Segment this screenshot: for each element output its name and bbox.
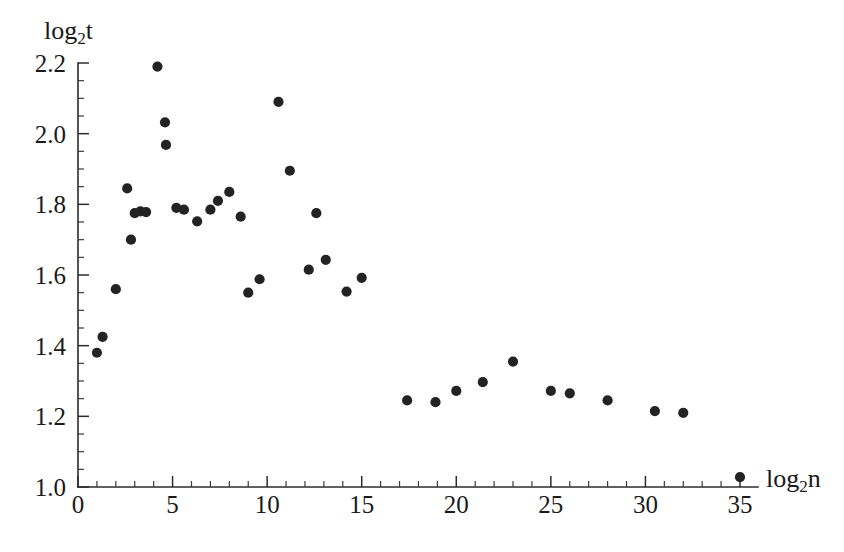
data-point [735,472,745,482]
x-tick-label: 20 [444,491,469,518]
x-tick-label: 30 [633,491,658,518]
data-point [402,395,412,405]
data-point [179,205,189,215]
y-tick-label: 2.0 [35,121,66,148]
y-tick-label: 1.4 [35,333,67,360]
data-point [285,166,295,176]
x-tick-label: 35 [728,491,753,518]
y-axis-ticks [78,63,89,487]
y-tick-label: 1.2 [35,403,66,430]
data-point [243,288,253,298]
data-point [341,287,351,297]
data-point [650,406,660,416]
data-point [236,212,246,222]
data-point [304,265,314,275]
data-points-layer [92,61,745,482]
data-point [478,377,488,387]
scatter-plot-figure: log2t log2n 1.01.21.41.61.82.02.2 051015… [0,0,844,552]
data-point [111,284,121,294]
x-tick-label: 0 [72,491,85,518]
data-point [357,273,367,283]
data-point [161,140,171,150]
data-point [508,356,518,366]
data-point [205,205,215,215]
data-point [160,117,170,127]
x-tick-label: 10 [255,491,280,518]
data-point [311,208,321,218]
x-axis: 05101520253035 [72,476,758,518]
x-tick-label: 5 [166,491,179,518]
y-tick-label: 1.8 [35,191,66,218]
y-axis: 1.01.21.41.61.82.02.2 [35,50,89,501]
y-tick-label: 1.0 [35,474,66,501]
data-point [565,388,575,398]
x-tick-label: 15 [349,491,374,518]
data-point [546,386,556,396]
x-tick-label: 25 [538,491,563,518]
y-tick-label: 1.6 [35,262,66,289]
data-point [97,332,107,342]
y-axis-tick-labels: 1.01.21.41.61.82.02.2 [35,50,67,501]
data-point [451,386,461,396]
data-point [678,408,688,418]
data-point [254,274,264,284]
y-tick-label: 2.2 [35,50,66,77]
data-point [224,187,234,197]
data-point [141,207,151,217]
data-point [152,61,162,71]
x-axis-ticks [78,476,740,487]
data-point [92,348,102,358]
data-point [213,196,223,206]
data-point [192,216,202,226]
plot-canvas: 1.01.21.41.61.82.02.2 05101520253035 [0,0,844,552]
data-point [321,255,331,265]
data-point [273,97,283,107]
x-axis-tick-labels: 05101520253035 [72,491,753,518]
data-point [126,235,136,245]
data-point [430,397,440,407]
data-point [122,183,132,193]
data-point [603,395,613,405]
